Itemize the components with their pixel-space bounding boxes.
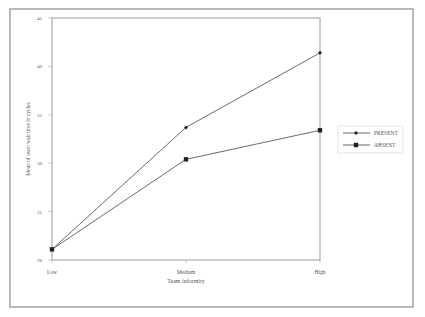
x-axis-title: Team informity (167, 278, 204, 284)
square-marker-icon (50, 247, 54, 251)
x-tick-label: Medium (177, 269, 196, 275)
y-tick-label: 45 (37, 16, 43, 21)
legend-label: ABSENT (374, 142, 396, 148)
y-tick-label: 35 (37, 113, 43, 118)
diamond-marker-icon (318, 51, 322, 55)
y-axis-title: Mean of team wait time in cycles (25, 102, 31, 175)
series-present (50, 51, 322, 252)
series-absent (50, 128, 322, 251)
legend: PRESENTABSENT (338, 126, 403, 153)
outer-frame (10, 9, 413, 307)
x-tick-label: Low (47, 269, 57, 275)
legend-label: PRESENT (374, 130, 398, 136)
y-axis-ticks: 202530354045 (37, 16, 52, 263)
series-line (52, 130, 320, 249)
series-layer (50, 51, 322, 252)
square-marker-icon (184, 157, 188, 161)
y-tick-label: 40 (37, 64, 43, 69)
series-line (52, 53, 320, 250)
y-tick-label: 20 (37, 258, 43, 263)
y-tick-label: 25 (37, 210, 43, 215)
y-tick-label: 30 (37, 161, 43, 166)
x-tick-label: High (315, 269, 326, 275)
line-chart-svg: 202530354045 LowMediumHigh Mean of team … (0, 0, 425, 317)
chart: 202530354045 LowMediumHigh Mean of team … (0, 0, 425, 317)
square-marker-icon (318, 128, 322, 132)
x-axis-ticks: LowMediumHigh (47, 260, 326, 275)
square-marker-icon (354, 143, 358, 147)
